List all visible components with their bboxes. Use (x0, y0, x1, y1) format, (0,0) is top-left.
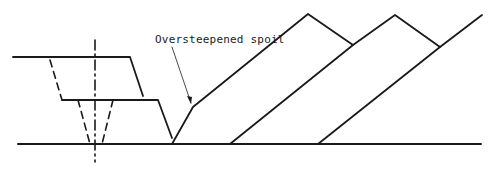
dashed-right-lower (102, 100, 113, 144)
dashed-left-lower (78, 100, 90, 144)
middle-bench (62, 100, 172, 138)
upper-bench (13, 57, 143, 96)
annotation-leader-line (172, 47, 191, 103)
oversteepened-spoil-label: Oversteepened spoil (155, 33, 285, 46)
excavation-cross-section-diagram: Oversteepened spoil (0, 0, 495, 170)
spoil-pile-3 (318, 15, 482, 144)
dashed-boom-left-upper (50, 60, 62, 100)
